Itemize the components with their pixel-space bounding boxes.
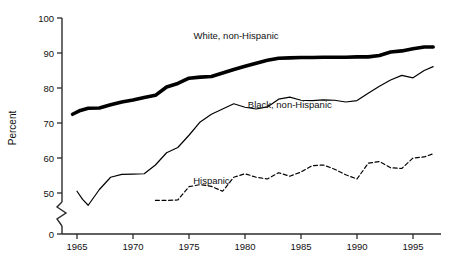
y-tick-label-0: 0: [49, 229, 54, 240]
y-axis-title: Percent: [7, 111, 18, 146]
y-axis-break-marker: [57, 202, 66, 226]
series-label-black-non-hispanic: Black, non-Hispanic: [248, 99, 332, 110]
x-tick-label-1965: 1965: [66, 241, 87, 252]
y-tick-label-100: 100: [38, 13, 54, 24]
y-tick-label-90: 90: [43, 48, 54, 59]
y-tick-label-70: 70: [43, 118, 54, 129]
x-tick-label-1990: 1990: [346, 241, 367, 252]
x-tick-label-1995: 1995: [402, 241, 423, 252]
x-tick-label-1970: 1970: [122, 241, 143, 252]
line-chart: 0506070809010019651970197519801985199019…: [0, 0, 452, 268]
series-label-hispanic: Hispanic: [193, 175, 230, 186]
x-tick-label-1975: 1975: [178, 241, 199, 252]
y-tick-label-60: 60: [43, 153, 54, 164]
series-label-white-non-hispanic: White, non-Hispanic: [194, 30, 279, 41]
x-tick-label-1980: 1980: [234, 241, 255, 252]
x-tick-label-1985: 1985: [290, 241, 311, 252]
chart-figure: 0506070809010019651970197519801985199019…: [0, 0, 452, 268]
y-tick-label-80: 80: [43, 83, 54, 94]
series-line-black-non-hispanic: [77, 67, 433, 206]
y-tick-label-50: 50: [43, 188, 54, 199]
